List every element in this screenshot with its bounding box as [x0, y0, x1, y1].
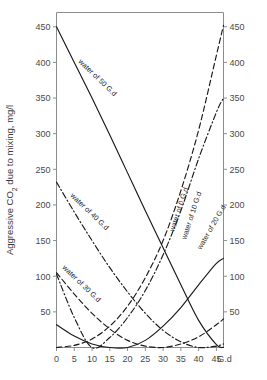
x-tick-label: 15 [105, 354, 115, 364]
y-tick-label-right: 150 [230, 236, 245, 246]
y-tick-label-left: 250 [35, 165, 50, 175]
y-tick-label-right: 50 [230, 307, 240, 317]
x-tick-label: 35 [176, 354, 186, 364]
x-tick-label: 10 [87, 354, 97, 364]
y-tick-label-left: 400 [35, 58, 50, 68]
chart-figure: 0510152025303540455050100100150150200200… [0, 0, 267, 380]
x-axis-unit-label: G.d [217, 354, 232, 364]
y-tick-label-right: 250 [230, 165, 245, 175]
y-tick-label-right: 400 [230, 58, 245, 68]
x-tick-label: 5 [72, 354, 77, 364]
x-tick-label: 20 [123, 354, 133, 364]
x-tick-label: 40 [194, 354, 204, 364]
y-tick-label-left: 350 [35, 93, 50, 103]
y-tick-label-left: 300 [35, 129, 50, 139]
y-tick-label-right: 450 [230, 22, 245, 32]
y-tick-label-right: 100 [230, 272, 245, 282]
x-tick-label: 25 [140, 354, 150, 364]
y-tick-label-left: 200 [35, 200, 50, 210]
y-tick-label-right: 350 [230, 93, 245, 103]
y-tick-label-right: 200 [230, 200, 245, 210]
x-tick-label: 0 [54, 354, 59, 364]
x-tick-label: 30 [158, 354, 168, 364]
y-tick-label-right: 300 [230, 129, 245, 139]
y-tick-label-left: 50 [40, 307, 50, 317]
y-tick-label-left: 100 [35, 272, 50, 282]
aggressive-co2-mixing-chart: 0510152025303540455050100100150150200200… [0, 0, 267, 380]
y-tick-label-left: 450 [35, 22, 50, 32]
y-tick-label-left: 150 [35, 236, 50, 246]
